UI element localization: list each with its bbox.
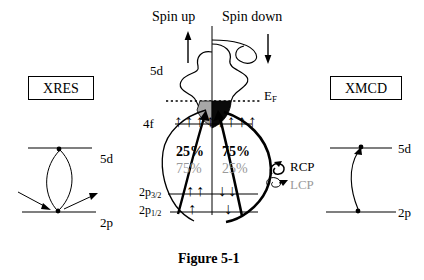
dos-curve-spin-down bbox=[212, 44, 248, 106]
spin-up-arrow bbox=[185, 31, 192, 63]
spin-down-arrow bbox=[265, 34, 272, 64]
level-2p32-sub: 3/2 bbox=[151, 191, 161, 200]
xres-state-dot-2p bbox=[56, 209, 61, 214]
rcp-polarization-symbol bbox=[271, 161, 284, 174]
percent-left-gray: 75% bbox=[176, 162, 202, 176]
level-2p32-base: 2p bbox=[139, 185, 151, 199]
spin-down-label: Spin down bbox=[222, 10, 282, 24]
xmcd-label-2p: 2p bbox=[398, 206, 411, 219]
center-level-4f-label: 4f bbox=[143, 117, 154, 130]
xres-transition-curve-left bbox=[47, 150, 60, 209]
arrows-2p32-left: ↑↑ bbox=[186, 183, 206, 199]
percent-right-gray: 25% bbox=[222, 162, 248, 176]
percent-right-black: 75% bbox=[222, 145, 250, 159]
xres-label-5d: 5d bbox=[100, 152, 113, 165]
percent-left-black: 25% bbox=[176, 145, 204, 159]
spin-down-loop-curve bbox=[212, 40, 257, 63]
xmcd-state-dot-5d bbox=[359, 145, 364, 150]
arrows-2p12-right: ↓ bbox=[224, 201, 232, 217]
arrows-4f-right: ↑↑↑↑ bbox=[216, 113, 259, 130]
xres-transition-curve-right bbox=[60, 150, 72, 209]
xres-incoming-photon-arrow bbox=[18, 192, 51, 210]
fermi-label-base: E bbox=[264, 88, 272, 103]
xres-label-2p: 2p bbox=[100, 216, 113, 229]
figure-container: Spin up Spin down EF 5d 4f 2p3/2 2p1/2 ↑… bbox=[0, 0, 424, 280]
center-level-2p32-label: 2p3/2 bbox=[139, 186, 161, 200]
fermi-label-sub: F bbox=[272, 94, 277, 104]
xmcd-transition-arrow bbox=[351, 147, 362, 209]
rcp-label: RCP bbox=[290, 160, 315, 173]
level-2p12-base: 2p bbox=[139, 203, 151, 217]
lcp-label: LCP bbox=[290, 178, 314, 191]
figure-caption: Figure 5-1 bbox=[178, 252, 240, 266]
center-band-5d-label: 5d bbox=[150, 64, 163, 77]
dos-curve-spin-up bbox=[180, 52, 212, 108]
xmcd-title-box: XMCD bbox=[330, 76, 402, 100]
arrows-2p32-right: ↓↓ bbox=[218, 183, 238, 199]
figure-vector-layer bbox=[0, 0, 424, 280]
fermi-level-label: EF bbox=[264, 89, 277, 104]
xres-state-dot-5d bbox=[57, 147, 62, 152]
xmcd-state-dot-2p bbox=[356, 209, 361, 214]
xmcd-label-5d: 5d bbox=[398, 142, 411, 155]
arrows-2p12-left: ↑ bbox=[188, 201, 196, 217]
xres-title-box: XRES bbox=[28, 76, 94, 100]
center-level-2p12-label: 2p1/2 bbox=[139, 204, 161, 218]
spin-up-label: Spin up bbox=[152, 10, 195, 24]
level-2p12-sub: 1/2 bbox=[151, 209, 161, 218]
